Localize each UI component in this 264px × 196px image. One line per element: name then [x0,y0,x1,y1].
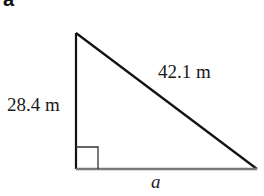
vertical-leg-label: 28.4 m [7,95,60,115]
hypotenuse [76,33,257,169]
hypotenuse-label: 42.1 m [158,62,211,82]
base-leg-label: a [151,172,161,192]
triangle-figure: a 28.4 m 42.1 m a [0,0,264,196]
right-angle-marker [76,147,98,169]
